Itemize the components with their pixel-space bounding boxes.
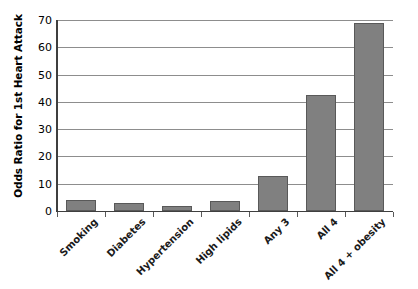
bar-slot xyxy=(201,20,249,211)
y-axis-tick-label: 60 xyxy=(24,41,52,54)
y-axis-tick-label: 0 xyxy=(24,205,52,218)
x-axis-category-label: All 4 xyxy=(314,216,339,241)
x-axis-category-labels: SmokingDiabetesHypertensionHigh lipidsAn… xyxy=(57,212,393,289)
bar[interactable] xyxy=(258,176,288,211)
bar-slot xyxy=(345,20,393,211)
bar-slot xyxy=(297,20,345,211)
bar[interactable] xyxy=(354,23,384,211)
bar-slot xyxy=(153,20,201,211)
y-axis-tick-label: 70 xyxy=(24,14,52,27)
bar[interactable] xyxy=(306,95,336,211)
bar[interactable] xyxy=(114,203,144,211)
y-axis-tick-labels: 010203040506070 xyxy=(24,0,52,289)
x-axis-category-label: Smoking xyxy=(57,216,99,258)
y-axis-title-label: Odds Ratio for 1st Heart Attack xyxy=(12,14,24,198)
bar-slot xyxy=(105,20,153,211)
bar[interactable] xyxy=(66,200,96,211)
bar-slot xyxy=(57,20,105,211)
y-axis-tick-label: 20 xyxy=(24,150,52,163)
y-axis-tick-label: 30 xyxy=(24,123,52,136)
bar[interactable] xyxy=(210,201,240,211)
bar-slot xyxy=(249,20,297,211)
y-axis-tick-label: 50 xyxy=(24,68,52,81)
bars-layer xyxy=(57,20,393,211)
x-axis-category-label: High lipids xyxy=(193,216,243,266)
y-axis-tick-label: 40 xyxy=(24,95,52,108)
bar[interactable] xyxy=(162,206,192,211)
x-axis-category-label: Any 3 xyxy=(261,216,291,246)
x-axis-tick xyxy=(393,212,394,217)
x-axis-category-label: Diabetes xyxy=(105,216,148,259)
y-axis-tick-label: 10 xyxy=(24,177,52,190)
bar-chart: Odds Ratio for 1st Heart Attack 01020304… xyxy=(0,0,418,289)
